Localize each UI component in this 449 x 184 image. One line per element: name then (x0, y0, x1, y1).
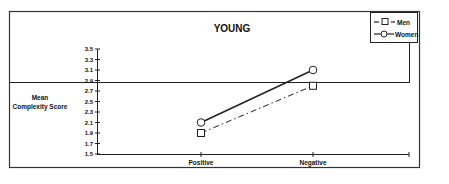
square-marker-icon (310, 82, 317, 89)
square-marker-icon (198, 130, 205, 137)
y-axis-label-line1: Mean (32, 94, 49, 101)
legend-women-label: Women (395, 31, 418, 38)
legend: Men Women (371, 13, 419, 43)
square-marker-icon (382, 19, 388, 25)
y-tick-label: 2.9 (85, 78, 94, 84)
chart-frame-top (10, 12, 410, 83)
series-line-women (201, 70, 313, 123)
y-tick-label: 3.3 (85, 57, 94, 63)
y-tick-label: 3.1 (85, 67, 94, 73)
circle-marker-icon (309, 66, 317, 74)
circle-marker-icon (197, 119, 205, 127)
chart-title: YOUNG (214, 23, 251, 34)
y-tick-label: 1.5 (85, 151, 94, 157)
y-axis-label-line2: Complexity Score (13, 103, 68, 111)
y-tick-label: 2.3 (85, 109, 94, 115)
chart-canvas: YOUNG Men Women Mean Complexity Score 3.… (0, 0, 449, 184)
y-tick-label: 2.7 (85, 88, 94, 94)
y-tick-label: 1.7 (85, 141, 94, 147)
circle-marker-icon (381, 31, 387, 37)
y-tick-label: 2.5 (85, 99, 94, 105)
series-layer (197, 66, 317, 136)
y-tick-label: 1.9 (85, 130, 94, 136)
x-tick-positive: Positive (189, 159, 214, 166)
series-line-men (201, 86, 313, 133)
legend-men-label: Men (397, 19, 410, 26)
y-tick-label: 2.1 (85, 120, 94, 126)
x-tick-negative: Negative (299, 159, 326, 167)
chart-frame (10, 12, 420, 168)
y-tick-label: 3.5 (85, 46, 94, 52)
